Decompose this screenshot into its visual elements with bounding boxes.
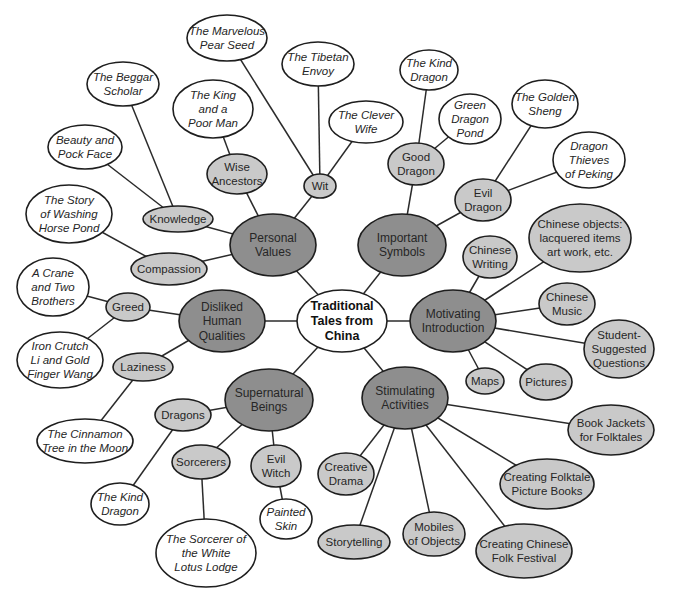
node-label: Drama <box>329 475 364 487</box>
node-label: Suggested <box>592 343 647 355</box>
concept-web-diagram: TraditionalTales fromChinaPersonalValues… <box>0 0 673 603</box>
node-chinese-writing: ChineseWriting <box>463 236 517 278</box>
node-label: Skin <box>275 520 297 532</box>
node-label: Tree in the Moon <box>42 442 128 454</box>
node-dragons: Dragons <box>155 399 211 431</box>
node-label: The Beggar <box>93 71 154 83</box>
node-ellipse <box>400 50 458 90</box>
node-label: Green <box>454 99 486 111</box>
node-disliked-human-qualities: DislikedHumanQualities <box>179 290 265 352</box>
node-ellipse <box>403 512 465 556</box>
node-label: and Two <box>31 281 75 293</box>
node-ellipse <box>282 42 354 86</box>
node-label: the White <box>182 547 231 559</box>
node-label: Sorcerers <box>176 456 226 468</box>
node-label: Good <box>402 151 430 163</box>
node-label: Wife <box>355 123 378 135</box>
node-label: Pear Seed <box>200 39 255 51</box>
node-label: Wise <box>224 161 250 173</box>
concept-nodes: TraditionalTales fromChinaPersonalValues… <box>17 15 654 587</box>
node-book-jackets-for-folktales: Book Jacketsfor Folktales <box>568 405 654 455</box>
node-label: Evil <box>474 187 493 199</box>
node-label: The Tibetan <box>287 51 348 63</box>
node-label: Dragons <box>161 409 205 421</box>
node-ellipse <box>512 80 578 128</box>
node-ellipse <box>500 459 594 509</box>
node-ellipse <box>91 483 149 525</box>
node-ellipse <box>87 62 159 106</box>
node-the-tibetan-envoy: The TibetanEnvoy <box>282 42 354 86</box>
node-label: Pictures <box>525 376 567 388</box>
node-label: Lotus Lodge <box>174 561 237 573</box>
node-the-kind-dragon-bottom: The KindDragon <box>91 483 149 525</box>
node-label: Qualities <box>199 329 246 343</box>
node-ellipse <box>48 125 122 169</box>
node-the-marvelous-pear-seed: The MarvelousPear Seed <box>187 15 267 61</box>
node-label: of Washing <box>40 208 98 220</box>
node-label: The Story <box>44 194 95 206</box>
node-label: Dragon <box>464 201 502 213</box>
node-label: Dragon <box>101 505 139 517</box>
node-label: Li and Gold <box>31 354 90 366</box>
node-label: Dragon <box>397 165 435 177</box>
node-label: Poor Man <box>188 117 238 129</box>
node-greed: Greed <box>106 293 150 321</box>
node-ellipse <box>568 405 654 455</box>
node-creating-chinese-folk-festival: Creating ChineseFolk Festival <box>476 524 572 578</box>
node-label: Activities <box>381 398 428 412</box>
node-ellipse <box>187 15 267 61</box>
node-label: and a <box>199 103 228 115</box>
node-label: The Kind <box>406 57 453 69</box>
node-label: Dragon <box>451 113 489 125</box>
node-label: Values <box>255 245 291 259</box>
node-creating-folktale-picture-books: Creating FolktalePicture Books <box>500 459 594 509</box>
node-label: Human <box>203 314 242 328</box>
node-label: The Kind <box>97 491 144 503</box>
node-label: China <box>325 329 361 343</box>
node-the-sorcerer-of-the-white-lotus-lodge: The Sorcerer ofthe WhiteLotus Lodge <box>156 519 256 587</box>
node-label: Scholar <box>104 85 144 97</box>
node-personal-values: PersonalValues <box>230 214 316 276</box>
node-wise-ancestors: WiseAncestors <box>207 154 267 194</box>
node-label: A Crane <box>31 267 74 279</box>
node-label: Compassion <box>137 263 201 275</box>
node-label: Student- <box>597 329 641 341</box>
node-ellipse <box>318 453 374 495</box>
node-label: Tales from <box>311 314 373 328</box>
node-ellipse <box>463 236 517 278</box>
node-label: Supernatural <box>235 386 304 400</box>
node-label: Finger Wang <box>27 368 93 380</box>
node-label: Beauty and <box>56 134 115 146</box>
node-ellipse <box>260 499 312 539</box>
node-label: Questions <box>593 357 645 369</box>
node-the-king-and-a-poor-man: The Kingand aPoor Man <box>173 80 253 138</box>
node-student-suggested-questions: Student-SuggestedQuestions <box>584 320 654 378</box>
node-label: Dragon <box>410 71 448 83</box>
node-chinese-music: ChineseMusic <box>539 283 595 325</box>
node-label: Laziness <box>120 361 166 373</box>
node-ellipse <box>455 179 511 221</box>
node-knowledge: Knowledge <box>143 206 213 232</box>
node-the-clever-wife: The CleverWife <box>329 101 403 143</box>
node-storytelling: Storytelling <box>318 525 390 559</box>
node-green-dragon-pond: GreenDragonPond <box>439 94 501 144</box>
node-label: Maps <box>471 375 499 387</box>
node-label: The Golden <box>515 91 575 103</box>
node-label: Writing <box>472 258 508 270</box>
node-label: The Marvelous <box>189 25 265 37</box>
node-label: of Objects <box>408 535 460 547</box>
node-ellipse <box>251 445 301 487</box>
node-label: Pond <box>457 127 484 139</box>
node-the-story-of-washing-horse-pond: The Storyof WashingHorse Pond <box>26 185 112 243</box>
node-important-symbols: ImportantSymbols <box>358 214 446 276</box>
node-label: Greed <box>112 301 144 313</box>
node-wit: Wit <box>304 174 336 198</box>
node-label: Chinese objects: <box>537 218 622 230</box>
node-laziness: Laziness <box>113 353 173 381</box>
node-ellipse <box>388 143 444 185</box>
node-evil-dragon: EvilDragon <box>455 179 511 221</box>
node-label: lacquered items <box>539 232 620 244</box>
node-iron-crutch-li: Iron CrutchLi and GoldFinger Wang <box>17 332 103 388</box>
node-label: art work, etc. <box>547 246 613 258</box>
node-the-beggar-scholar: The BeggarScholar <box>87 62 159 106</box>
